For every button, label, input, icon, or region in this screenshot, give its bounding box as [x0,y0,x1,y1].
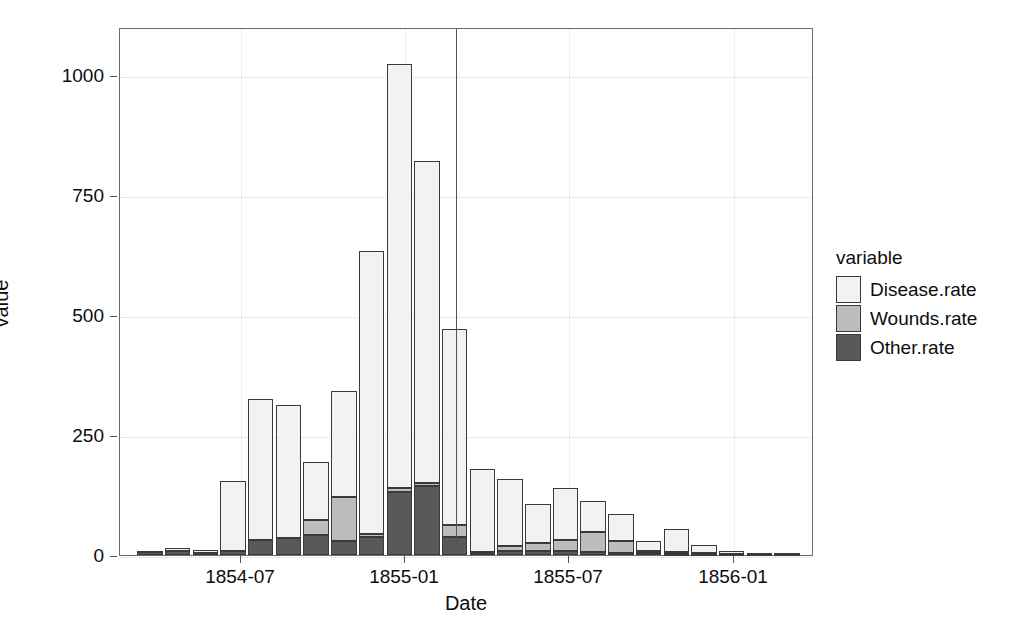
bar-segment-Disease-rate [193,550,218,552]
bar-segment-Disease-rate [747,553,772,555]
bar-segment-Disease-rate [470,469,495,552]
bar-segment-Wounds-rate [387,488,412,492]
bar-1855-01 [387,27,412,555]
legend-entry-Disease-rate: Disease.rate [836,275,977,304]
bar-1856-01 [719,27,744,555]
legend-title: variable [836,247,977,269]
bar-segment-Wounds-rate [636,551,661,553]
bar-1854-08 [248,27,273,555]
x-tick-mark [733,556,734,563]
bar-segment-Disease-rate [248,399,273,539]
y-tick-label: 0 [4,545,104,567]
bar-segment-Disease-rate [276,405,301,538]
bar-segment-Other-rate [387,492,412,555]
bar-1854-10 [303,27,328,555]
bar-1855-06 [525,27,550,555]
bar-segment-Disease-rate [331,391,356,498]
bar-segment-Wounds-rate [331,497,356,541]
chart-figure: value 02505007501000 1854-071855-011855-… [0,0,1010,633]
bar-1854-04 [137,27,162,555]
bar-1854-06 [193,27,218,555]
y-tick-mark [110,556,117,557]
x-tick-label: 1854-07 [205,566,275,588]
y-tick-label: 750 [4,185,104,207]
y-tick-mark [110,196,117,197]
bar-segment-Wounds-rate [580,532,605,552]
x-tick-mark [240,556,241,563]
bar-1854-09 [276,27,301,555]
bar-segment-Wounds-rate [691,553,716,555]
legend-entry-Wounds-rate: Wounds.rate [836,304,977,333]
bar-1854-11 [331,27,356,555]
bar-segment-Disease-rate [580,501,605,532]
bar-segment-Disease-rate [719,551,744,554]
bar-segment-Other-rate [525,551,550,555]
bar-segment-Other-rate [220,551,245,555]
y-tick-mark [110,76,117,77]
sanitary-commission-reference-line [456,29,457,555]
legend: variable Disease.rateWounds.rateOther.ra… [836,247,977,362]
bar-segment-Disease-rate [359,251,384,535]
bar-segment-Wounds-rate [470,552,495,554]
bar-segment-Disease-rate [442,329,467,525]
bar-segment-Disease-rate [636,541,661,551]
legend-label: Other.rate [870,338,955,357]
y-tick-label: 500 [4,305,104,327]
bar-1855-10 [636,27,661,555]
bar-segment-Disease-rate [497,479,522,546]
x-tick-mark [404,556,405,563]
y-tick-label: 250 [4,425,104,447]
bar-segment-Wounds-rate [359,534,384,537]
bar-segment-Other-rate [165,551,190,555]
y-axis-ticks: 02505007501000 [0,0,104,633]
bar-segment-Wounds-rate [608,541,633,553]
bar-segment-Disease-rate [387,64,412,488]
bar-segment-Other-rate [303,535,328,555]
bar-segment-Other-rate [359,537,384,555]
bar-segment-Disease-rate [525,504,550,543]
y-gridline [120,557,812,558]
bar-segment-Disease-rate [303,462,328,520]
x-axis-label: Date [0,592,932,615]
bar-1855-07 [553,27,578,555]
bar-segment-Wounds-rate [553,540,578,551]
legend-swatch-Other-rate [836,334,861,361]
legend-entries: Disease.rateWounds.rateOther.rate [836,275,977,362]
x-tick-label: 1855-07 [533,566,603,588]
bar-1856-03 [774,27,799,555]
bar-1855-11 [664,27,689,555]
bar-segment-Disease-rate [774,553,799,555]
bar-1855-05 [497,27,522,555]
legend-label: Disease.rate [870,280,977,299]
bar-segment-Disease-rate [553,488,578,540]
bar-segment-Disease-rate [414,161,439,484]
y-tick-mark [110,316,117,317]
legend-swatch-Wounds-rate [836,305,861,332]
bar-segment-Wounds-rate [442,525,467,537]
legend-entry-Other-rate: Other.rate [836,333,977,362]
bar-1855-03 [442,27,467,555]
y-tick-label: 1000 [4,65,104,87]
bar-segment-Disease-rate [137,551,162,553]
plot-panel [119,28,813,556]
bar-segment-Disease-rate [220,481,245,551]
legend-swatch-Disease-rate [836,276,861,303]
bar-segment-Other-rate [248,540,273,555]
bar-segment-Wounds-rate [525,543,550,551]
bar-1856-02 [747,27,772,555]
bar-1855-08 [580,27,605,555]
bar-segment-Other-rate [331,541,356,555]
bar-segment-Other-rate [497,551,522,555]
bar-segment-Other-rate [664,554,689,556]
bar-segment-Other-rate [553,551,578,555]
bar-segment-Other-rate [276,538,301,555]
y-tick-mark [110,436,117,437]
bar-segment-Wounds-rate [497,546,522,551]
bar-1855-04 [470,27,495,555]
bar-segment-Other-rate [580,552,605,555]
bar-segment-Wounds-rate [414,483,439,486]
bar-1854-07 [220,27,245,555]
legend-label: Wounds.rate [870,309,977,328]
bar-segment-Other-rate [414,486,439,555]
x-tick-mark [568,556,569,563]
